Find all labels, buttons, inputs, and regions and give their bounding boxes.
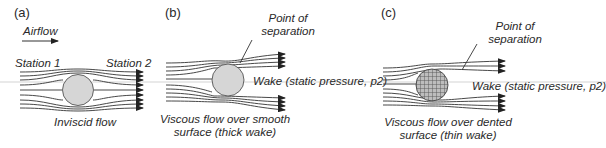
caption-b: Viscous flow over smooth surface (thick … bbox=[160, 113, 290, 139]
separation-label-c-line2: separation bbox=[475, 33, 555, 46]
wake-label-b: Wake (static pressure, p2) bbox=[253, 75, 387, 88]
separation-pointer-b bbox=[240, 40, 252, 63]
wake-label-c: Wake (static pressure, p2) bbox=[472, 80, 606, 93]
station-1-label: Station 1 bbox=[15, 57, 60, 70]
separation-label-b-line2: separation bbox=[248, 25, 328, 38]
separation-label-b-line1: Point of bbox=[248, 12, 328, 25]
caption-c-line2: surface (thin wake) bbox=[383, 129, 513, 142]
sphere-b bbox=[212, 64, 244, 96]
panel-b-letter: (b) bbox=[165, 6, 181, 19]
sphere-a bbox=[63, 75, 94, 106]
caption-b-line1: Viscous flow over smooth bbox=[160, 113, 290, 126]
airflow-label: Airflow bbox=[23, 25, 58, 38]
panel-c-letter: (c) bbox=[381, 6, 396, 19]
separation-label-b: Point of separation bbox=[248, 12, 328, 38]
caption-a: Inviscid flow bbox=[54, 116, 116, 129]
caption-b-line2: surface (thick wake) bbox=[160, 126, 290, 139]
caption-c: Viscous flow over dented surface (thin w… bbox=[383, 116, 513, 142]
panel-a-letter: (a) bbox=[14, 6, 30, 19]
separation-label-c-line1: Point of bbox=[475, 20, 555, 33]
caption-c-line1: Viscous flow over dented bbox=[383, 116, 513, 129]
station-2-label: Station 2 bbox=[106, 57, 151, 70]
sphere-c-dimpled bbox=[416, 69, 448, 101]
separation-label-c: Point of separation bbox=[475, 20, 555, 46]
